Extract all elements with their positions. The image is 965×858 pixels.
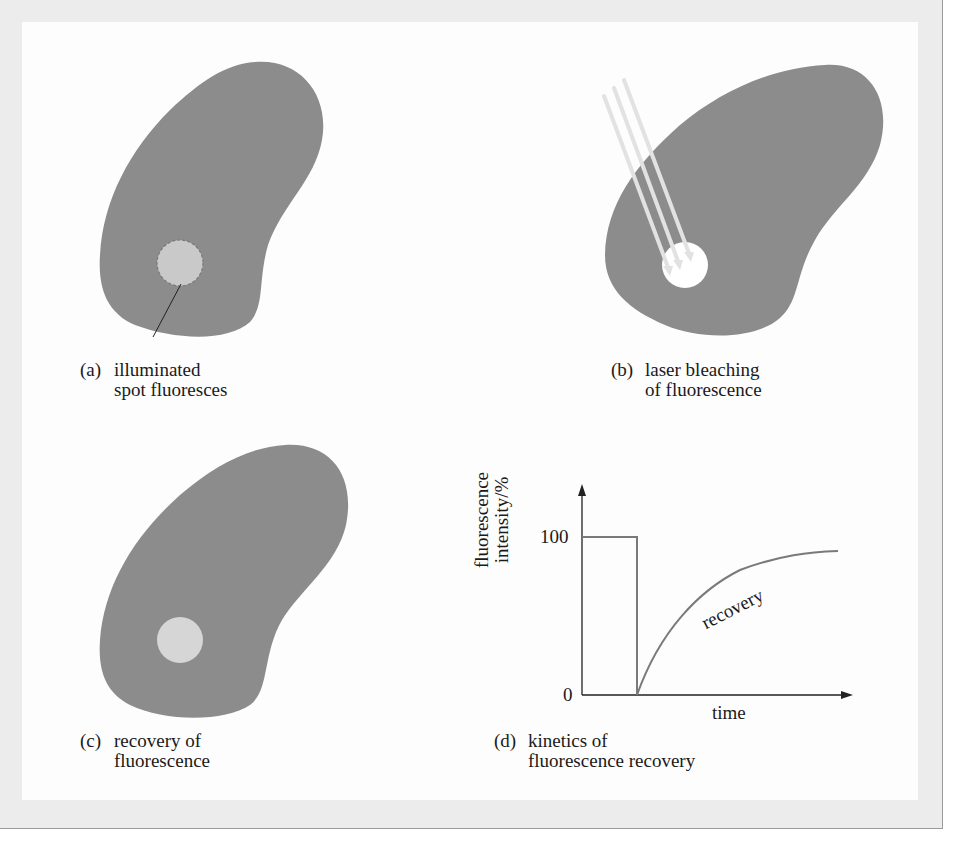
x-axis-arrow-icon bbox=[841, 691, 853, 699]
cell-a bbox=[100, 62, 324, 337]
caption-a-line1: illuminated bbox=[114, 359, 201, 380]
caption-b: (b)laser bleaching of fluorescence bbox=[611, 360, 762, 400]
cell-b-body bbox=[605, 65, 883, 336]
y-axis-label-line2: intensity/% bbox=[492, 440, 512, 600]
caption-a-tag: (a) bbox=[80, 360, 114, 380]
caption-b-line1: laser bleaching bbox=[645, 359, 759, 380]
caption-c: (c)recovery of fluorescence bbox=[80, 731, 210, 771]
cell-b bbox=[604, 65, 883, 336]
caption-c-line2: fluorescence bbox=[80, 751, 210, 771]
cell-c bbox=[100, 445, 348, 718]
y-axis-label-line1: fluorescence bbox=[472, 440, 492, 600]
caption-b-line2: of fluorescence bbox=[611, 380, 762, 400]
y-axis-label: fluorescence intensity/% bbox=[484, 440, 512, 600]
caption-d-line1: kinetics of bbox=[528, 730, 608, 751]
caption-d-tag: (d) bbox=[494, 731, 528, 751]
caption-d: (d)kinetics of fluorescence recovery bbox=[494, 731, 695, 771]
caption-a: (a)illuminated spot fluoresces bbox=[80, 360, 227, 400]
recovered-spot bbox=[157, 617, 203, 663]
y-tick-100: 100 bbox=[540, 526, 569, 548]
cell-a-body bbox=[100, 62, 324, 337]
recovery-chart bbox=[578, 484, 853, 699]
caption-a-line2: spot fluoresces bbox=[80, 380, 227, 400]
caption-c-tag: (c) bbox=[80, 731, 114, 751]
y-tick-0: 0 bbox=[563, 684, 573, 706]
y-axis-arrow-icon bbox=[578, 484, 586, 496]
cell-c-body bbox=[100, 445, 348, 718]
recovery-curve bbox=[637, 551, 838, 695]
pre-bleach-line bbox=[582, 537, 637, 695]
caption-c-line1: recovery of bbox=[114, 730, 201, 751]
x-axis-label: time bbox=[712, 702, 746, 724]
illuminated-spot bbox=[157, 240, 203, 286]
caption-b-tag: (b) bbox=[611, 360, 645, 380]
caption-d-line2: fluorescence recovery bbox=[494, 751, 695, 771]
